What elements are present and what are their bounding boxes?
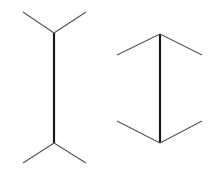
fin-line <box>23 12 54 33</box>
fin-line <box>54 12 86 33</box>
figure-inward-fins <box>117 34 202 143</box>
fin-line <box>160 34 202 55</box>
fin-line <box>54 143 86 163</box>
fin-line <box>23 143 54 163</box>
fin-line <box>117 34 160 55</box>
fin-line <box>117 121 160 143</box>
fin-line <box>160 121 202 143</box>
figure-outward-fins <box>23 12 86 163</box>
muller-lyer-diagram <box>0 0 220 174</box>
